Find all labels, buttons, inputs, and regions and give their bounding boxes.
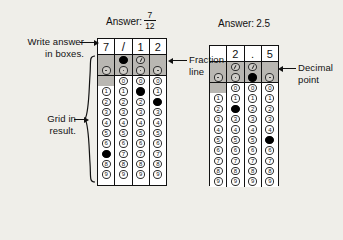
digit-bubble-1-9[interactable]: 9 [119,170,128,178]
digit-cell-0-2[interactable]: 2 [98,97,114,107]
digit-cell-1-9[interactable]: 9 [115,169,131,179]
digit-cell-2-3[interactable]: 3 [245,114,261,124]
digit-cell-1-1[interactable]: 1 [115,86,131,96]
digit-cell-3-1[interactable]: 1 [262,93,278,103]
digit-bubble-2-1[interactable]: 1 [136,87,145,95]
digit-cell-2-1[interactable]: 1 [133,86,149,96]
digit-cell-2-7[interactable]: 7 [245,156,261,166]
digit-cell-0-3[interactable]: 3 [98,107,114,117]
digit-cell-2-7[interactable]: 7 [133,149,149,159]
digit-cell-1-3[interactable]: 3 [227,114,243,124]
digit-cell-1-0[interactable]: 0 [115,76,131,86]
digit-bubble-3-9[interactable]: 9 [153,170,162,178]
digit-cell-3-5[interactable]: 5 [262,135,278,145]
digit-bubble-1-1[interactable]: 1 [119,87,128,95]
digit-cell-0-9[interactable]: 9 [210,176,226,186]
digit-cell-2-5[interactable]: 5 [133,128,149,138]
digit-bubble-0-3[interactable]: 3 [102,108,111,116]
digit-bubble-3-0[interactable]: 0 [265,84,274,92]
write-in-box-row[interactable]: 7/12 [98,39,166,55]
digit-bubble-3-2[interactable]: 2 [265,105,274,113]
slash-bubble-2[interactable] [248,63,257,71]
decimal-bubble-2[interactable] [248,73,257,81]
grid-in-card-fraction[interactable]: 7/12123456789012345678901234567890123456… [97,38,167,186]
digit-cell-2-2[interactable]: 2 [245,104,261,114]
digit-cell-3-6[interactable]: 6 [262,145,278,155]
digit-bubble-0-7[interactable]: 7 [214,157,223,165]
digit-bubble-2-0[interactable]: 0 [136,77,145,85]
digit-bubble-0-8[interactable]: 8 [214,167,223,175]
digit-bubble-0-2[interactable]: 2 [214,105,223,113]
digit-bubble-1-6[interactable]: 6 [119,139,128,147]
digit-cell-3-6[interactable]: 6 [150,138,166,148]
digit-cell-3-0[interactable]: 0 [150,76,166,86]
digit-bubble-3-9[interactable]: 9 [265,177,274,185]
write-in-box-2[interactable]: . [245,46,262,62]
digit-cell-0-1[interactable]: 1 [98,86,114,96]
digit-bubble-0-3[interactable]: 3 [214,115,223,123]
fraction-line-cell-2[interactable] [133,55,149,65]
digit-cell-1-9[interactable]: 9 [227,176,243,186]
digit-bubble-3-6[interactable]: 6 [153,139,162,147]
digit-bubble-1-5[interactable]: 5 [119,129,128,137]
digit-cell-0-3[interactable]: 3 [210,114,226,124]
digit-bubble-0-6[interactable]: 6 [102,139,111,147]
fraction-line-cell-0[interactable] [98,55,114,65]
digit-cell-2-2[interactable]: 2 [133,97,149,107]
digit-cell-1-5[interactable]: 5 [227,135,243,145]
digit-bubble-3-8[interactable]: 8 [153,160,162,168]
digit-bubble-0-5[interactable]: 5 [214,136,223,144]
digit-cell-3-8[interactable]: 8 [262,166,278,176]
digit-cell-2-0[interactable]: 0 [133,76,149,86]
digit-cell-0-2[interactable]: 2 [210,104,226,114]
digit-cell-1-6[interactable]: 6 [227,145,243,155]
digit-cell-2-8[interactable]: 8 [245,166,261,176]
fraction-line-cell-3[interactable] [150,55,166,65]
digit-bubble-0-7[interactable]: 7 [102,150,111,158]
digit-bubble-0-6[interactable]: 6 [214,146,223,154]
digit-cell-3-3[interactable]: 3 [150,107,166,117]
digit-bubble-0-1[interactable]: 1 [102,87,111,95]
digit-bubble-1-8[interactable]: 8 [119,160,128,168]
digit-bubble-3-7[interactable]: 7 [153,150,162,158]
digit-cell-2-0[interactable]: 0 [245,83,261,93]
write-in-box-1[interactable]: / [115,39,132,55]
digit-cell-0-1[interactable]: 1 [210,93,226,103]
digit-bubble-3-3[interactable]: 3 [153,108,162,116]
digit-bubble-2-4[interactable]: 4 [248,125,257,133]
digit-cell-3-2[interactable]: 2 [262,104,278,114]
decimal-bubble-2[interactable] [136,66,145,74]
digit-cell-0-4[interactable]: 4 [98,117,114,127]
digit-bubble-3-8[interactable]: 8 [265,167,274,175]
digit-cell-1-2[interactable]: 2 [115,97,131,107]
digit-cell-3-7[interactable]: 7 [262,156,278,166]
digit-cell-3-5[interactable]: 5 [150,128,166,138]
digit-cell-0-4[interactable]: 4 [210,124,226,134]
digit-bubble-3-0[interactable]: 0 [153,77,162,85]
digit-bubble-2-5[interactable]: 5 [248,136,257,144]
write-in-box-2[interactable]: 1 [133,39,150,55]
decimal-bubble-1[interactable] [119,66,128,74]
digit-bubble-2-4[interactable]: 4 [136,118,145,126]
digit-cell-1-3[interactable]: 3 [115,107,131,117]
digit-bubble-2-7[interactable]: 7 [248,157,257,165]
digit-bubble-1-0[interactable]: 0 [119,77,128,85]
digit-cell-3-2[interactable]: 2 [150,97,166,107]
digit-cell-1-1[interactable]: 1 [227,93,243,103]
digit-cell-1-0[interactable]: 0 [227,83,243,93]
digit-bubble-0-9[interactable]: 9 [214,177,223,185]
digit-bubble-3-2[interactable]: 2 [153,98,162,106]
digit-cell-2-1[interactable]: 1 [245,93,261,103]
decimal-bubble-3[interactable] [265,73,274,81]
digit-cell-3-1[interactable]: 1 [150,86,166,96]
digit-bubble-0-9[interactable]: 9 [102,170,111,178]
digit-bubble-2-9[interactable]: 9 [248,177,257,185]
digit-cell-2-4[interactable]: 4 [133,117,149,127]
digit-bubble-3-4[interactable]: 4 [153,118,162,126]
fraction-line-cell-3[interactable] [262,62,278,72]
digit-bubble-2-8[interactable]: 8 [248,167,257,175]
digit-cell-3-4[interactable]: 4 [150,117,166,127]
digit-cell-1-6[interactable]: 6 [115,138,131,148]
digit-bubble-0-4[interactable]: 4 [214,125,223,133]
write-in-box-3[interactable]: 2 [150,39,166,55]
